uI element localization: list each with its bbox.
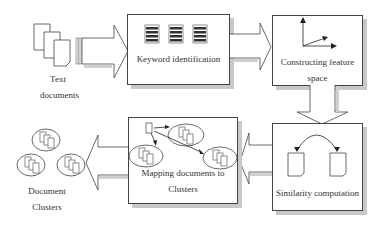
similarity-icon (273, 124, 363, 184)
keyword-identification-label: Keyword identification (128, 54, 229, 64)
keyword-documents-icon (128, 15, 228, 45)
similarity-computation-label: Similarity computation (273, 188, 362, 198)
document-clusters-label: Document Clusters (22, 186, 72, 212)
constructing-feature-space-box: Constructing feature space (272, 15, 363, 86)
constructing-feature-space-label: Constructing feature space (273, 57, 362, 83)
feature-axes-icon (273, 16, 363, 56)
similarity-computation-box: Similarity computation (272, 123, 363, 211)
text-documents-label: Text documents (40, 74, 76, 100)
arrow-right-1 (74, 22, 134, 82)
document-clusters-icon (14, 128, 94, 188)
mapping-icon (129, 118, 239, 173)
mapping-documents-label: Mapping documents to Clusters (129, 168, 237, 194)
mapping-documents-box: Mapping documents to Clusters (128, 117, 238, 204)
keyword-identification-box: Keyword identification (127, 14, 230, 85)
arrow-left-1 (238, 132, 278, 192)
